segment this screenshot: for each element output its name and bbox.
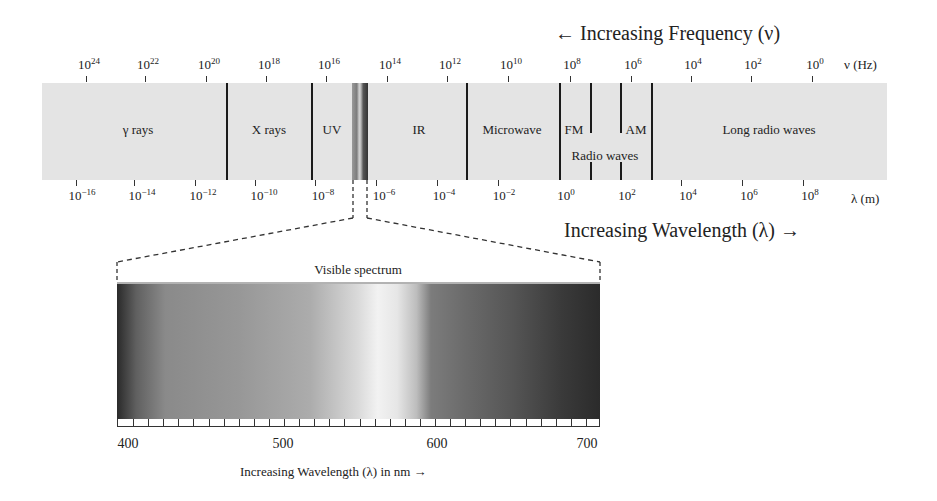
ruler-tick: [465, 419, 466, 426]
ruler-tick: [224, 419, 225, 426]
ruler-tick: [209, 419, 210, 426]
visible-wavelength-caption: Increasing Wavelength (λ) in nm →: [240, 464, 427, 480]
ruler-tick: [390, 419, 391, 426]
ruler-tick: [360, 419, 361, 426]
ruler-tick: [284, 419, 285, 426]
ruler-tick: [344, 419, 345, 426]
ruler-tick: [193, 419, 194, 426]
ruler-tick: [435, 419, 436, 426]
ruler-tick: [239, 419, 240, 426]
ruler-tick: [571, 419, 572, 426]
ruler-tick: [133, 419, 134, 426]
ruler-tick: [495, 419, 496, 426]
ruler-tick: [586, 419, 587, 426]
ruler-tick: [480, 419, 481, 426]
nm-label-400: 400: [118, 436, 139, 452]
nm-label-700: 700: [577, 436, 598, 452]
nm-ruler: [117, 419, 600, 427]
visible-spectrum-gradient: [117, 284, 600, 419]
ruler-tick: [556, 419, 557, 426]
visible-spectrum-title: Visible spectrum: [314, 262, 402, 278]
ruler-tick: [269, 419, 270, 426]
ruler-tick: [450, 419, 451, 426]
ruler-tick: [163, 419, 164, 426]
ruler-tick: [420, 419, 421, 426]
ruler-tick: [314, 419, 315, 426]
ruler-tick: [510, 419, 511, 426]
ruler-tick: [405, 419, 406, 426]
ruler-tick: [329, 419, 330, 426]
ruler-tick: [526, 419, 527, 426]
ruler-tick: [541, 419, 542, 426]
ruler-tick: [148, 419, 149, 426]
ruler-tick: [178, 419, 179, 426]
nm-label-500: 500: [273, 436, 294, 452]
ruler-tick: [254, 419, 255, 426]
nm-label-600: 600: [427, 436, 448, 452]
ruler-tick: [299, 419, 300, 426]
ruler-tick: [375, 419, 376, 426]
